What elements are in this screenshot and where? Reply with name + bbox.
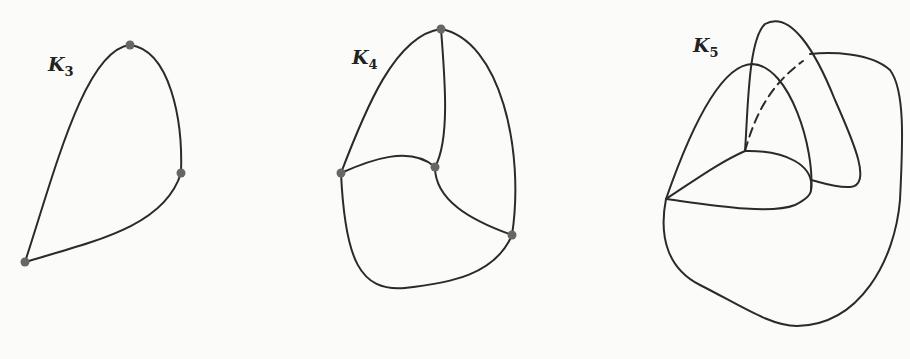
k4-edge-bottom xyxy=(341,173,512,288)
k3-edge-left xyxy=(25,45,130,262)
k4-edge-center-left xyxy=(341,156,435,173)
k4-vertex-right xyxy=(508,231,517,240)
k4-diagram: K4 xyxy=(337,25,517,289)
k3-label: K3 xyxy=(47,53,74,79)
k4-edge-center-top xyxy=(435,29,445,167)
k4-vertex-top xyxy=(437,25,446,34)
k3-edge-right xyxy=(130,45,181,173)
graph-embeddings-figure: K3 K4 K5 xyxy=(0,0,910,359)
k4-vertex-center xyxy=(431,163,440,172)
k3-vertex-top xyxy=(126,41,135,50)
k5-edge-center-right xyxy=(745,151,811,190)
k5-inner-dome xyxy=(666,64,811,199)
k4-vertex-left xyxy=(337,169,346,178)
k3-vertex-bottom-left xyxy=(21,258,30,267)
k5-tall-loop xyxy=(745,21,860,187)
k5-edge-center-left xyxy=(666,151,745,199)
k3-diagram: K3 xyxy=(21,41,186,267)
k4-edge-center-right xyxy=(435,167,512,235)
k5-label: K5 xyxy=(692,34,719,60)
k5-outer-loop xyxy=(664,53,903,326)
k3-vertex-right xyxy=(177,169,186,178)
k4-label: K4 xyxy=(351,46,378,72)
k5-diagram: K5 xyxy=(664,21,903,326)
k5-edge-base xyxy=(666,190,811,209)
